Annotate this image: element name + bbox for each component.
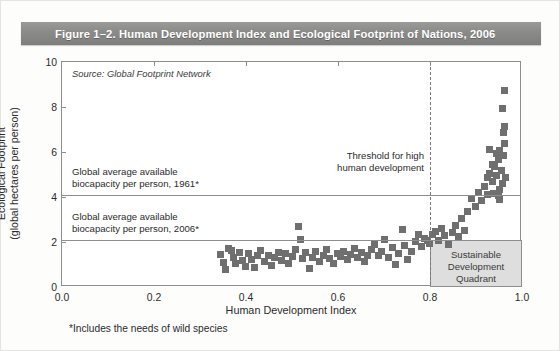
- data-point: [452, 222, 459, 229]
- data-point: [438, 225, 445, 232]
- data-point: [371, 241, 378, 248]
- y-axis-tick-label: 0: [51, 282, 57, 293]
- figure-title-bar: Figure 1–2. Human Development Index and …: [21, 22, 541, 45]
- data-point: [499, 180, 506, 187]
- x-axis-tick-label: 0.4: [239, 292, 253, 303]
- data-point: [461, 227, 468, 234]
- data-point: [292, 246, 299, 253]
- y-axis-tick-label: 6: [51, 147, 57, 158]
- x-axis-tick-label: 0.2: [147, 292, 161, 303]
- biocapacity-1961-label: Global average available biocapacity per…: [72, 166, 199, 191]
- data-point: [489, 161, 496, 168]
- data-point: [236, 249, 243, 256]
- x-axis-tick-label: 0.6: [331, 292, 345, 303]
- data-point: [501, 123, 508, 130]
- data-point: [289, 253, 296, 260]
- y-axis-tick-mark: [62, 197, 66, 198]
- data-point: [330, 260, 337, 267]
- data-point: [257, 247, 264, 254]
- data-point: [493, 150, 500, 157]
- x-axis-tick-mark: [338, 62, 339, 66]
- x-axis-label: Human Development Index: [61, 304, 521, 316]
- hdi-threshold-label: Threshold for high human development: [312, 150, 424, 175]
- data-point: [498, 167, 505, 174]
- data-point: [445, 241, 452, 248]
- y-axis-tick-label: 2: [51, 237, 57, 248]
- x-axis-tick-mark: [246, 62, 247, 66]
- y-axis-tick-mark: [62, 242, 66, 243]
- data-point: [295, 223, 302, 230]
- data-point: [323, 246, 330, 253]
- x-axis-tick-label: 1.0: [515, 292, 529, 303]
- data-point: [225, 245, 232, 252]
- data-point: [481, 183, 488, 190]
- data-point: [392, 261, 399, 268]
- data-point: [316, 258, 323, 265]
- data-point: [458, 215, 465, 222]
- data-point: [217, 251, 224, 258]
- data-point: [251, 264, 258, 271]
- y-axis-tick-label: 4: [51, 192, 57, 203]
- data-point: [501, 140, 508, 147]
- data-point: [399, 226, 406, 233]
- x-axis-tick-mark: [430, 62, 431, 66]
- biocapacity-2006-line: [62, 240, 520, 241]
- data-point: [496, 196, 503, 203]
- data-point: [395, 250, 402, 257]
- source-note: Source: Global Footprint Network: [72, 68, 211, 79]
- y-axis-tick-mark: [62, 107, 66, 108]
- data-point: [340, 248, 347, 255]
- data-point: [490, 190, 497, 197]
- data-point: [501, 87, 508, 94]
- figure-footnote: *Includes the needs of wild species: [69, 323, 228, 334]
- data-point: [484, 174, 491, 181]
- x-axis-tick-mark: [154, 62, 155, 66]
- page-title: Figure 1–2. Human Development Index and …: [21, 28, 495, 40]
- x-axis-tick-label: 0.0: [55, 292, 69, 303]
- sustainable-development-quadrant: Sustainable Development Quadrant: [430, 240, 522, 287]
- data-point: [500, 129, 507, 136]
- data-point: [306, 265, 313, 272]
- data-point: [441, 232, 448, 239]
- data-point: [499, 105, 506, 112]
- hdi-threshold-line: [430, 62, 431, 285]
- quadrant-label: Sustainable Development Quadrant: [431, 249, 521, 286]
- biocapacity-2006-label: Global average available biocapacity per…: [72, 211, 199, 236]
- data-point: [268, 262, 275, 269]
- data-point: [242, 263, 249, 270]
- data-point: [220, 259, 227, 266]
- y-axis-tick-label: 10: [45, 57, 57, 68]
- plot-area: Sustainable Development Quadrant Source:…: [61, 61, 521, 286]
- data-point: [312, 248, 319, 255]
- data-point: [222, 266, 229, 273]
- y-axis-tick-label: 8: [51, 102, 57, 113]
- biocapacity-1961-line: [62, 195, 520, 196]
- data-point: [285, 260, 292, 267]
- y-axis-tick-mark: [62, 152, 66, 153]
- data-point: [361, 258, 368, 265]
- data-point: [418, 243, 425, 250]
- data-point: [408, 248, 415, 255]
- data-point: [299, 255, 306, 262]
- data-point: [500, 152, 507, 159]
- y-axis-label: Ecological Footprint (global hectares pe…: [0, 61, 19, 286]
- x-axis-tick-label: 0.8: [423, 292, 437, 303]
- data-point: [404, 256, 411, 263]
- figure-page: Figure 1–2. Human Development Index and …: [0, 0, 560, 351]
- data-point: [464, 208, 471, 215]
